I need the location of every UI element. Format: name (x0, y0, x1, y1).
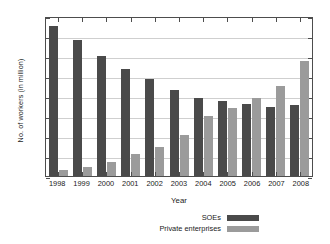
bar-group (240, 18, 264, 176)
bar (170, 90, 179, 176)
bar (276, 86, 285, 176)
bar-groups (46, 18, 312, 176)
x-tick-mark (227, 172, 228, 176)
legend-swatch-soes (227, 215, 259, 221)
x-tick-label: 2000 (94, 180, 118, 187)
x-tick-mark (300, 18, 301, 22)
x-tick-mark (131, 172, 132, 176)
x-tick-label: 1999 (69, 180, 93, 187)
bar (252, 98, 261, 176)
x-tick-mark (203, 18, 204, 22)
bar (107, 162, 116, 176)
x-tick-mark (179, 18, 180, 22)
x-tick-mark (252, 172, 253, 176)
bar-group (264, 18, 288, 176)
x-axis-tick-labels: 1998199920002001200220032004200520062007… (45, 180, 313, 187)
x-tick-label: 2008 (289, 180, 313, 187)
bar (145, 79, 154, 176)
x-tick-label: 2004 (191, 180, 215, 187)
x-tick-label: 2001 (118, 180, 142, 187)
x-tick-mark (131, 18, 132, 22)
x-tick-mark (227, 18, 228, 22)
legend-item-soes: SOEs (0, 212, 330, 223)
x-tick-mark (276, 172, 277, 176)
x-tick-mark (106, 18, 107, 22)
x-tick-label: 2002 (142, 180, 166, 187)
x-tick-mark (179, 172, 180, 176)
bar-group (167, 18, 191, 176)
bar-chart-figure: No. of workers (in million) 051015202530… (0, 0, 330, 244)
x-tick-mark (58, 172, 59, 176)
x-tick-label: 2003 (167, 180, 191, 187)
x-tick-label: 2006 (240, 180, 264, 187)
legend-label-private-enterprises: Private enterprises (71, 225, 227, 232)
legend-swatch-private-enterprises (227, 226, 259, 232)
bar (194, 98, 203, 176)
bar (131, 154, 140, 176)
legend: SOEs Private enterprises (0, 212, 330, 234)
x-tick-mark (155, 18, 156, 22)
x-tick-label: 1998 (45, 180, 69, 187)
bar-group (46, 18, 70, 176)
bar (83, 167, 92, 176)
bar (73, 40, 82, 176)
x-tick-mark (106, 172, 107, 176)
bar-group (288, 18, 312, 176)
bar (180, 135, 189, 176)
bar (228, 108, 237, 176)
bar (242, 104, 251, 176)
bar (59, 170, 68, 176)
x-axis-title: Year (45, 196, 313, 205)
bar-group (143, 18, 167, 176)
bar (204, 116, 213, 176)
legend-label-soes: SOEs (71, 214, 227, 221)
bar (121, 69, 130, 176)
bar (290, 105, 299, 176)
bar-group (191, 18, 215, 176)
bar (218, 101, 227, 176)
bar-group (215, 18, 239, 176)
x-tick-mark (203, 172, 204, 176)
x-tick-mark (276, 18, 277, 22)
bar-group (94, 18, 118, 176)
x-tick-mark (155, 172, 156, 176)
bar (300, 61, 309, 176)
x-tick-mark (300, 172, 301, 176)
x-tick-label: 2005 (216, 180, 240, 187)
y-axis-title: No. of workers (in million) (16, 21, 25, 181)
bar-group (119, 18, 143, 176)
x-tick-label: 2007 (264, 180, 288, 187)
plot-area (45, 17, 313, 177)
x-tick-mark (58, 18, 59, 22)
x-tick-mark (252, 18, 253, 22)
bar-group (70, 18, 94, 176)
bar (266, 107, 275, 176)
x-tick-mark (82, 18, 83, 22)
bar (49, 26, 58, 176)
bar (155, 147, 164, 176)
x-tick-mark (82, 172, 83, 176)
legend-item-private-enterprises: Private enterprises (0, 223, 330, 234)
bar (97, 56, 106, 176)
